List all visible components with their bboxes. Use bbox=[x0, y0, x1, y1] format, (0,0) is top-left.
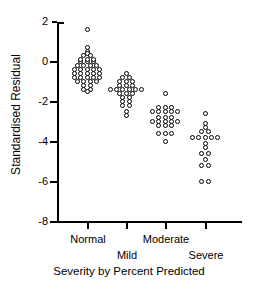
x-axis-tick bbox=[87, 223, 89, 229]
data-point bbox=[156, 109, 161, 114]
data-point bbox=[215, 135, 220, 140]
data-point bbox=[203, 111, 208, 116]
x-axis-tick-label-moderate: Moderate bbox=[136, 233, 196, 245]
data-point bbox=[206, 163, 211, 168]
data-point bbox=[124, 113, 129, 118]
data-point bbox=[206, 151, 211, 156]
data-point bbox=[175, 119, 180, 124]
data-point bbox=[91, 57, 96, 62]
x-axis-tick bbox=[126, 223, 128, 229]
data-point bbox=[190, 135, 195, 140]
data-point bbox=[203, 145, 208, 150]
data-point bbox=[163, 131, 168, 136]
data-point bbox=[108, 87, 113, 92]
data-point bbox=[150, 119, 155, 124]
x-axis-tick bbox=[165, 223, 167, 229]
dot-plot-figure: 20-2-4-6-8 Standardised Residual NormalM… bbox=[0, 0, 258, 294]
data-point bbox=[163, 109, 168, 114]
data-point bbox=[169, 131, 174, 136]
data-point bbox=[139, 87, 144, 92]
data-point bbox=[78, 57, 83, 62]
data-point bbox=[127, 103, 132, 108]
data-point bbox=[163, 139, 168, 144]
data-point bbox=[156, 123, 161, 128]
data-point bbox=[196, 135, 201, 140]
data-point bbox=[156, 131, 161, 136]
data-point bbox=[94, 79, 99, 84]
x-axis-tick bbox=[205, 223, 207, 229]
data-point bbox=[85, 89, 90, 94]
data-point bbox=[203, 135, 208, 140]
data-point bbox=[199, 151, 204, 156]
x-axis-tick-label-severe: Severe bbox=[176, 249, 236, 261]
x-axis-title: Severity by Percent Predicted bbox=[0, 265, 258, 277]
data-point bbox=[199, 129, 204, 134]
data-point bbox=[150, 109, 155, 114]
data-point bbox=[169, 109, 174, 114]
plot-area bbox=[0, 0, 258, 240]
data-point bbox=[199, 179, 204, 184]
data-point bbox=[169, 123, 174, 128]
data-point bbox=[75, 79, 80, 84]
data-point bbox=[209, 135, 214, 140]
data-point bbox=[203, 157, 208, 162]
data-point bbox=[163, 123, 168, 128]
data-point bbox=[175, 109, 180, 114]
data-point bbox=[206, 129, 211, 134]
x-axis-tick-label-normal: Normal bbox=[58, 233, 118, 245]
data-point bbox=[85, 27, 90, 32]
data-point bbox=[120, 103, 125, 108]
data-point bbox=[163, 91, 168, 96]
x-axis-tick-label-mild: Mild bbox=[97, 249, 157, 261]
data-point bbox=[85, 57, 90, 62]
data-point bbox=[206, 179, 211, 184]
data-point bbox=[199, 163, 204, 168]
